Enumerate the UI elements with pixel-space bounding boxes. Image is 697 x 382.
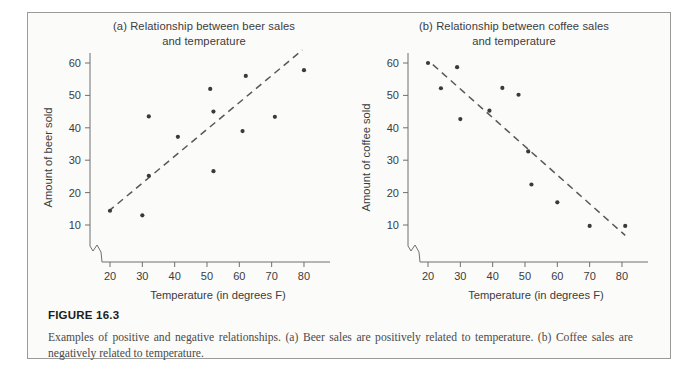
data-point [147,174,151,178]
y-axis-tick-label: 50 [387,89,399,101]
data-point [500,86,504,90]
x-axis-tick-label: 20 [422,270,434,282]
data-point [140,213,144,217]
data-point [273,115,277,119]
x-axis-tick-label: 70 [584,270,596,282]
y-axis-tick-label: 10 [387,219,399,231]
x-axis-tick-label: 40 [169,270,181,282]
data-point [526,149,530,153]
y-axis-tick-label: 40 [387,122,399,134]
x-axis-tick-label: 40 [487,270,499,282]
regression-trend-line [108,50,302,211]
y-axis-tick-label: 10 [69,219,81,231]
data-point [244,74,248,78]
y-axis-tick-label: 40 [69,122,81,134]
data-point [240,129,244,133]
data-point [458,117,462,121]
plot-area: 10203040506020304050607080Temperature (i… [42,50,330,301]
x-axis-title: Temperature (in degrees F) [468,289,604,301]
plot-area: 10203040506020304050607080Temperature (i… [360,53,648,301]
x-axis-tick-label: 30 [454,270,466,282]
x-axis-tick-label: 30 [136,270,148,282]
data-point [439,86,443,90]
data-point [588,224,592,228]
data-point [529,182,533,186]
scatter-plot-coffee-sales: 10203040506020304050607080Temperature (i… [348,13,670,303]
x-axis-tick-label: 20 [104,270,116,282]
y-axis-tick-label: 50 [69,89,81,101]
axis-break-zigzag [408,245,420,262]
y-axis-tick-label: 20 [69,187,81,199]
data-point [623,224,627,228]
axis-break-zigzag [90,245,102,262]
data-point [208,87,212,91]
data-point [555,200,559,204]
x-axis-tick-label: 50 [519,270,531,282]
y-axis-tick-label: 60 [387,57,399,69]
data-point [211,110,215,114]
data-point [487,109,491,113]
chart-panel-coffee-sales: (b) Relationship between coffee sales an… [348,13,670,303]
figure-number-label: FIGURE 16.3 [48,309,648,321]
data-point [147,114,151,118]
data-point [516,93,520,97]
figure-caption-block: FIGURE 16.3 Examples of positive and neg… [48,309,648,361]
data-point [426,61,430,65]
x-axis-tick-label: 80 [616,270,628,282]
chart-panel-beer-sales: (a) Relationship between beer sales and … [30,13,352,303]
y-axis-tick-label: 60 [69,57,81,69]
x-axis-tick-label: 60 [551,270,563,282]
data-point [211,169,215,173]
x-axis-tick-label: 80 [298,270,310,282]
figure-caption-text: Examples of positive and negative relati… [48,330,633,361]
scatter-plot-beer-sales: 10203040506020304050607080Temperature (i… [30,13,352,303]
data-point [455,65,459,69]
y-axis-title: Amount of beer sold [42,107,54,207]
x-axis-tick-label: 60 [233,270,245,282]
x-axis-tick-label: 50 [201,270,213,282]
data-point [302,68,306,72]
y-axis-tick-label: 30 [387,154,399,166]
x-axis-title: Temperature (in degrees F) [150,289,286,301]
data-point [176,135,180,139]
y-axis-title: Amount of coffee sold [360,103,372,211]
data-point [108,209,112,213]
figure-16-3: (a) Relationship between beer sales and … [0,0,697,382]
figure-frame: (a) Relationship between beer sales and … [27,12,671,359]
y-axis-tick-label: 20 [387,187,399,199]
y-axis-tick-label: 30 [69,154,81,166]
x-axis-tick-label: 70 [266,270,278,282]
